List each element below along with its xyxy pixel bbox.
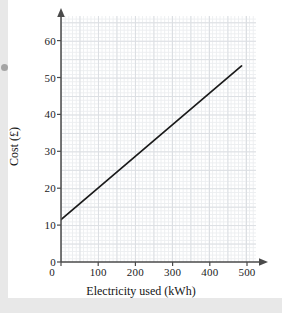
line-series-electricity-cost [61,66,242,220]
x-axis-arrow-icon [259,258,268,266]
x-axis-title: Electricity used (kWh) [0,284,282,299]
chart-figure: 0 10 20 30 40 50 60 0 100 200 300 400 50… [0,0,282,313]
y-tick-label-60: 60 [45,35,56,47]
y-tick-label-10: 10 [45,219,56,231]
x-tick-label-100: 100 [90,266,107,278]
data-series-layer [61,16,256,262]
y-tick-label-50: 50 [45,72,56,84]
plot-area [61,16,256,262]
y-tick-label-20: 20 [45,182,56,194]
y-tick-label-30: 30 [45,145,56,157]
x-tick-labels: 0 100 200 300 400 500 [0,266,282,282]
x-tick-label-200: 200 [127,266,144,278]
y-axis-title: Cost (£) [7,102,22,192]
page-background: 0 10 20 30 40 50 60 0 100 200 300 400 50… [0,0,282,313]
x-tick-label-0: 0 [49,266,55,278]
y-tick-label-40: 40 [45,108,56,120]
x-tick-label-300: 300 [164,266,181,278]
x-tick-label-500: 500 [238,266,255,278]
x-tick-label-400: 400 [201,266,218,278]
